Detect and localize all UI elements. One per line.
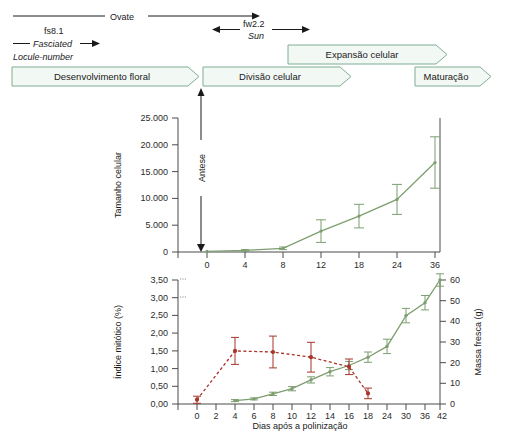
cell-size-xtick-6: 36 [430, 260, 440, 270]
qtl-label-ovate: Ovate [110, 12, 134, 22]
cell-size-ytick-4: 20.000 [140, 140, 168, 150]
freshmass-ytick-4: 40 [450, 316, 460, 326]
freshmass-line [235, 280, 440, 401]
figure-root: Ovate fs8.1 Fasciated Locule-number fw2.… [0, 0, 510, 437]
freshmass-markers [233, 278, 441, 402]
cell-size-xtick-0: 0 [204, 260, 209, 270]
cell-size-ytick-5: 25.000 [140, 113, 168, 123]
antese-annotation: Antese [197, 120, 207, 252]
mitotic-ytick-7: 3,50 [150, 275, 168, 285]
stage-label-desenvolvimento: Desenvolvimento floral [54, 71, 150, 82]
mitotic-ytick-3: 1,50 [150, 346, 168, 356]
qtl-label-locule-number: Locule-number [13, 52, 74, 62]
mitotic-xtick-8: 16 [344, 411, 354, 421]
mitotic-y-axis-label: Índice mitótico (%) [113, 305, 123, 379]
freshmass-ytick-2: 20 [450, 358, 460, 368]
mitotic-x-axis-label: Dias após a polinização [252, 421, 347, 431]
cell-size-chart: 0 5.000 10.000 15.000 20.000 25.000 Tama… [113, 113, 440, 270]
cell-size-xtick-4: 18 [354, 260, 364, 270]
figure-svg: Ovate fs8.1 Fasciated Locule-number fw2.… [0, 0, 510, 437]
mitotic-freshmass-chart: 0,00 0,50 1,00 1,50 2,00 2,50 3,00 3,50 … [113, 274, 483, 431]
cell-size-error-bars [241, 137, 440, 251]
mitotic-xtick-5: 10 [287, 411, 297, 421]
mitotic-xtick-12: 36 [420, 411, 430, 421]
mitotic-xtick-4: 8 [270, 411, 275, 421]
axis-break-marks [180, 279, 186, 297]
cell-size-y-axis-label: Tamanho celular [113, 152, 123, 218]
mitotic-xtick-2: 4 [232, 411, 237, 421]
stage-bands: Expansão celular Desenvolvimento floral … [12, 45, 491, 86]
antese-label: Antese [197, 154, 207, 182]
freshmass-ytick-6: 60 [450, 275, 460, 285]
mitotic-xtick-10: 24 [382, 411, 392, 421]
anthesis-connector [198, 88, 205, 120]
mitotic-ytick-6: 3,00 [150, 293, 168, 303]
mitotic-xtick-7: 14 [325, 411, 335, 421]
mitotic-xtick-1: 2 [213, 411, 218, 421]
mitotic-y-ticks: 0,00 0,50 1,00 1,50 2,00 2,50 3,00 3,50 [150, 275, 178, 409]
cell-size-xtick-2: 8 [280, 260, 285, 270]
cell-size-ytick-2: 10.000 [140, 193, 168, 203]
mitotic-x-ticks: 0 2 4 6 8 10 12 14 16 18 24 30 36 [178, 404, 447, 421]
mitotic-line [197, 351, 368, 400]
freshmass-ytick-5: 50 [450, 296, 460, 306]
mitotic-markers [195, 349, 370, 402]
mitotic-xtick-11: 30 [401, 411, 411, 421]
qtl-label-sun: Sun [248, 31, 264, 41]
mitotic-ytick-5: 2,50 [150, 310, 168, 320]
ovate-arrow [13, 13, 260, 20]
mitotic-ytick-2: 1,00 [150, 364, 168, 374]
qtl-label-fasciated: Fasciated [33, 39, 73, 49]
freshmass-ytick-1: 10 [450, 378, 460, 388]
mitotic-xtick-0: 0 [194, 411, 199, 421]
freshmass-error-bars [231, 274, 444, 402]
cell-size-ytick-3: 15.000 [140, 167, 168, 177]
cell-size-xtick-1: 4 [242, 260, 247, 270]
freshmass-y-axis-label: Massa fresca (g) [473, 308, 483, 375]
mitotic-ytick-1: 0,50 [150, 381, 168, 391]
qtl-label-fw22: fw2.2 [243, 19, 265, 29]
cell-size-y-ticks: 0 5.000 10.000 15.000 20.000 25.000 [140, 113, 178, 257]
stage-label-maturacao: Maturação [424, 71, 469, 82]
mitotic-xtick-13: 42 [437, 411, 447, 421]
mitotic-xtick-9: 18 [363, 411, 373, 421]
mitotic-ytick-4: 2,00 [150, 328, 168, 338]
mitotic-xtick-3: 6 [251, 411, 256, 421]
qtl-label-fs81: fs8.1 [44, 26, 64, 36]
cell-size-ytick-1: 5.000 [145, 220, 168, 230]
stage-label-divisao: Divisão celular [239, 71, 301, 82]
freshmass-y-ticks: 0 10 20 30 40 50 60 [440, 275, 460, 409]
mitotic-ytick-0: 0,00 [150, 399, 168, 409]
qtl-annotations: Ovate fs8.1 Fasciated Locule-number fw2.… [13, 12, 310, 63]
freshmass-ytick-0: 0 [450, 399, 455, 409]
stage-label-expansao: Expansão celular [326, 49, 399, 60]
freshmass-ytick-3: 30 [450, 337, 460, 347]
mitotic-xtick-6: 12 [306, 411, 316, 421]
cell-size-x-ticks: 0 4 8 12 18 24 36 [178, 252, 440, 270]
cell-size-xtick-5: 24 [392, 260, 402, 270]
cell-size-xtick-3: 12 [316, 260, 326, 270]
cell-size-ytick-0: 0 [163, 247, 168, 257]
